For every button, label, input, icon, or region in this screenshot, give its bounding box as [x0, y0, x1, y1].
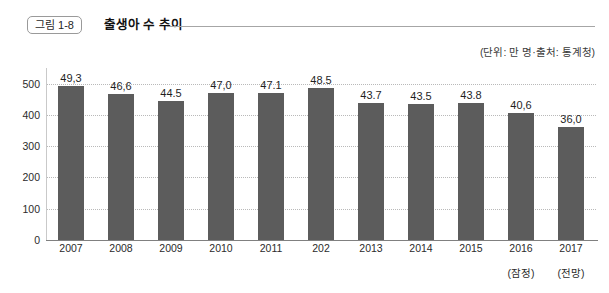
bar	[158, 101, 184, 240]
bar-group: 44.5	[146, 68, 196, 240]
bar-group: 47.1	[246, 68, 296, 240]
y-axis-labels: 0100200300400500	[6, 68, 40, 240]
bar-value-label: 43.5	[410, 90, 431, 102]
y-tick-label: 500	[22, 78, 40, 90]
page-title: 출생아 수 추이	[104, 16, 183, 34]
unit-source-note: (단위: 만 명·출처: 통계청)	[480, 44, 595, 59]
x-tick-label: 202	[296, 242, 346, 254]
x-axis-label-group: 2009	[146, 242, 196, 254]
x-axis-label-group: 2015	[446, 242, 496, 254]
bar-value-label: 48.5	[310, 74, 331, 86]
plot-area: 49,346,644.547,047.148.543.743.543.840,6…	[46, 68, 596, 240]
x-axis-label-group: 2011	[246, 242, 296, 254]
x-tick-label: 2009	[146, 242, 196, 254]
bar-value-label: 49,3	[60, 72, 81, 84]
y-tick-label: 300	[22, 140, 40, 152]
bar	[558, 127, 584, 240]
x-tick-label: 2015	[446, 242, 496, 254]
x-axis-label-group: 2007	[46, 242, 96, 254]
bar-group: 36,0	[546, 68, 596, 240]
bar-value-label: 40,6	[510, 99, 531, 111]
bar-group: 49,3	[46, 68, 96, 240]
x-tick-label: 2014	[396, 242, 446, 254]
bar-value-label: 44.5	[160, 87, 181, 99]
x-axis-label-group: 2010	[196, 242, 246, 254]
bar	[508, 113, 534, 240]
x-tick-note: (전망)	[546, 265, 596, 280]
x-tick-label: 2016	[496, 242, 546, 254]
figure-number-badge: 그림 1-8	[27, 16, 82, 34]
bar-value-label: 47.1	[260, 79, 281, 91]
bar-value-label: 43.7	[360, 89, 381, 101]
y-tick-label: 0	[34, 234, 40, 246]
bar-group: 47,0	[196, 68, 246, 240]
y-tick-label: 200	[22, 171, 40, 183]
bar-value-label: 47,0	[210, 79, 231, 91]
chart-header: 그림 1-8 출생아 수 추이 (단위: 만 명·출처: 통계청)	[0, 0, 609, 40]
y-tick-label: 100	[22, 203, 40, 215]
bar-group: 43.8	[446, 68, 496, 240]
x-tick-note: (잠정)	[496, 265, 546, 280]
bar-group: 46,6	[96, 68, 146, 240]
y-tick-label: 400	[22, 109, 40, 121]
bar	[208, 93, 234, 240]
bar-group: 48.5	[296, 68, 346, 240]
bar-value-label: 43.8	[460, 89, 481, 101]
x-axis-line	[46, 240, 598, 241]
bar	[58, 86, 84, 240]
bar	[308, 88, 334, 240]
x-axis-label-group: 202	[296, 242, 346, 254]
x-axis-label-group: 2008	[96, 242, 146, 254]
x-tick-label: 2013	[346, 242, 396, 254]
bar	[358, 103, 384, 240]
bar	[258, 93, 284, 240]
x-axis-label-group: 2016(잠정)	[496, 242, 546, 280]
x-tick-label: 2017	[546, 242, 596, 254]
bar	[408, 104, 434, 240]
bar-group: 40,6	[496, 68, 546, 240]
bar-value-label: 36,0	[560, 113, 581, 125]
x-tick-label: 2007	[46, 242, 96, 254]
bar	[458, 103, 484, 240]
x-axis-labels: 200720082009201020112022013201420152016(…	[46, 242, 596, 290]
bar-value-label: 46,6	[110, 80, 131, 92]
x-tick-label: 2010	[196, 242, 246, 254]
x-axis-label-group: 2017(전망)	[546, 242, 596, 280]
x-tick-label: 2008	[96, 242, 146, 254]
x-axis-label-group: 2014	[396, 242, 446, 254]
x-axis-label-group: 2013	[346, 242, 396, 254]
x-tick-label: 2011	[246, 242, 296, 254]
bar-group: 43.5	[396, 68, 446, 240]
title-divider	[167, 26, 595, 27]
bar-group: 43.7	[346, 68, 396, 240]
bar	[108, 94, 134, 240]
